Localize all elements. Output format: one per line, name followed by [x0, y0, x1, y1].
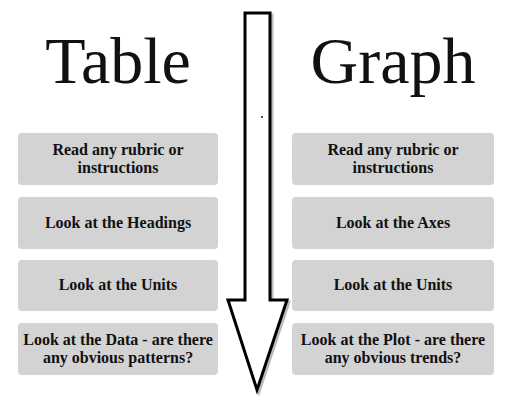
graph-step-read-rubric: Read any rubric or instructions [292, 133, 494, 185]
graph-step-units: Look at the Units [292, 260, 494, 311]
table-step-read-rubric: Read any rubric or instructions [18, 133, 218, 185]
table-step-data-patterns: Look at the Data - are there any obvious… [18, 323, 218, 375]
stray-dot [261, 116, 263, 118]
table-step-headings: Look at the Headings [18, 197, 218, 249]
table-step-units: Look at the Units [18, 260, 218, 311]
table-column-title: Table [18, 28, 218, 94]
graph-step-axes: Look at the Axes [292, 197, 494, 249]
graph-step-plot-trends: Look at the Plot - are there any obvious… [292, 323, 494, 375]
graph-column-title: Graph [292, 28, 494, 94]
